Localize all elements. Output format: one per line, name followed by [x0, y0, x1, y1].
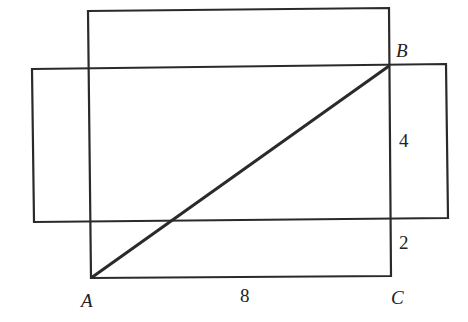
- diagram-canvas: B A C 4 2 8: [0, 0, 468, 322]
- label-length-2: 2: [399, 232, 409, 253]
- vertical-rectangle: [88, 8, 391, 278]
- label-length-8: 8: [240, 285, 250, 306]
- horizontal-rectangle: [32, 64, 448, 222]
- label-length-4: 4: [399, 130, 409, 151]
- label-point-a: A: [79, 290, 93, 311]
- label-point-b: B: [396, 40, 408, 61]
- label-point-c: C: [391, 287, 404, 308]
- diagonal-ab: [91, 66, 389, 278]
